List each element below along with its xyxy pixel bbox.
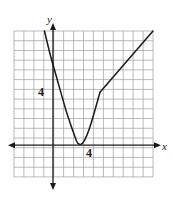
x-axis-label: x [162, 141, 167, 152]
x-axis [8, 142, 161, 148]
y-axis-tick-label-4: 4 [38, 86, 44, 98]
arrow-left-icon [8, 142, 15, 148]
grid-lines [14, 31, 153, 177]
y-axis-label: y [47, 14, 52, 25]
graph-figure: y x 4 4 [0, 0, 172, 197]
y-axis [50, 23, 56, 190]
arrow-right-icon [154, 142, 161, 148]
arrow-down-icon [50, 183, 56, 190]
function-curve [45, 31, 154, 144]
coordinate-plane [0, 0, 172, 197]
x-axis-tick-label-4: 4 [86, 147, 92, 159]
